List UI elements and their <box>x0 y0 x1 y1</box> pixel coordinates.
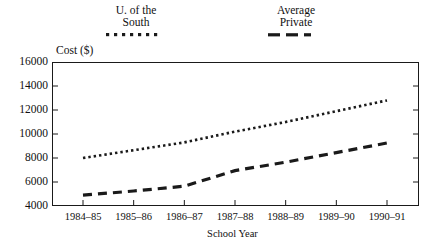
y-axis-tick-labels: 40006000800010000120001400016000 <box>0 0 48 252</box>
y-tick-label: 8000 <box>2 152 48 163</box>
x-axis-title: School Year <box>0 228 435 239</box>
y-tick-label: 6000 <box>2 176 48 187</box>
x-axis-title-text: School Year <box>207 228 258 239</box>
legend-sample-dashed <box>266 30 326 40</box>
x-tick-label: 1990–91 <box>355 211 419 222</box>
legend-entry-u-of-the-south: U. of the South <box>88 4 184 40</box>
legend-label-line1: Average <box>248 4 344 16</box>
chart-figure: U. of the South Average Private <box>0 0 435 252</box>
y-tick-label: 14000 <box>2 80 48 91</box>
legend-label-line2: South <box>88 16 184 28</box>
y-tick-label: 16000 <box>2 56 48 67</box>
plot-canvas <box>52 62 419 206</box>
legend-sample-dotted <box>106 30 166 40</box>
legend-label-line2: Private <box>248 16 344 28</box>
y-tick-label: 10000 <box>2 128 48 139</box>
y-tick-label: 4000 <box>2 200 48 211</box>
legend-entry-average-private: Average Private <box>248 4 344 40</box>
y-tick-label: 12000 <box>2 104 48 115</box>
legend-label-line1: U. of the <box>88 4 184 16</box>
y-axis-title: Cost ($) <box>56 44 93 56</box>
